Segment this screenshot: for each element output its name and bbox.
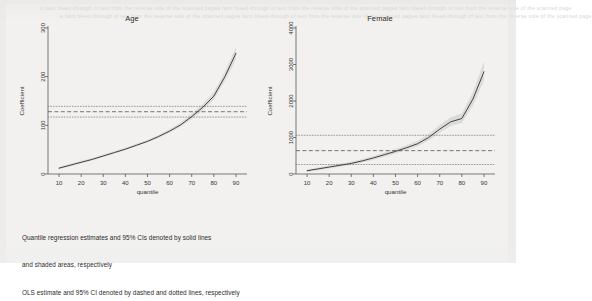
- y-tick-label-svg-female-3: 3000: [288, 57, 294, 71]
- y-tick-label-svg-female-1: 1000: [288, 130, 294, 144]
- caption-line-1: Quantile regression estimates and 95% CI…: [22, 233, 240, 242]
- x-tick-label-svg-age-3: 40: [122, 180, 129, 186]
- y-tick-label-svg-age-0: 0: [40, 172, 46, 176]
- x-tick-label-svg-female-8: 90: [481, 180, 488, 186]
- ghost-text-line-1: a faint bleed-through of text from the r…: [40, 5, 572, 11]
- x-tick-label-svg-age-0: 10: [56, 180, 63, 186]
- x-tick-label-svg-female-2: 30: [348, 180, 355, 186]
- x-tick-label-svg-age-1: 20: [78, 180, 85, 186]
- y-tick-label-svg-female-0: 0: [288, 172, 294, 176]
- plot-area-female: 01000200030004000Coefficient102030405060…: [262, 14, 498, 204]
- x-tick-label-svg-age-8: 90: [233, 180, 240, 186]
- chart-panel-age: Age 0100200300Coefficient102030405060708…: [14, 14, 250, 204]
- x-tick-label-svg-female-4: 50: [392, 180, 399, 186]
- figure-caption: Quantile regression estimates and 95% CI…: [22, 215, 240, 301]
- x-tick-label-svg-female-6: 70: [436, 180, 443, 186]
- x-axis-title-svg-age: quantile: [137, 188, 159, 195]
- estimate-line-svg-age: [59, 53, 236, 168]
- scan-edge-right: [508, 0, 516, 263]
- x-tick-label-svg-age-2: 30: [100, 180, 107, 186]
- y-axis-title-svg-female: Coefficient: [266, 86, 273, 115]
- x-tick-label-svg-female-5: 60: [414, 180, 421, 186]
- x-tick-label-svg-female-0: 10: [304, 180, 311, 186]
- y-tick-label-svg-female-2: 2000: [288, 94, 294, 108]
- y-tick-label-svg-age-3: 300: [40, 22, 46, 33]
- y-tick-label-svg-female-4: 4000: [288, 21, 294, 35]
- x-tick-label-svg-age-6: 70: [188, 180, 195, 186]
- caption-line-3: OLS estimate and 95% CI denoted by dashe…: [22, 288, 240, 297]
- y-tick-label-svg-age-2: 200: [40, 71, 46, 82]
- x-tick-label-svg-female-1: 20: [326, 180, 333, 186]
- y-tick-label-svg-age-1: 100: [40, 120, 46, 131]
- scan-edge-left: [0, 0, 6, 263]
- x-tick-label-svg-age-7: 80: [210, 180, 217, 186]
- chart-panel-female: Female 01000200030004000Coefficient10203…: [262, 14, 498, 204]
- ci-shaded-area-svg-female: [307, 62, 484, 172]
- x-tick-label-svg-female-7: 80: [458, 180, 465, 186]
- scan-edge-top: [0, 0, 516, 4]
- x-tick-label-svg-age-5: 60: [166, 180, 173, 186]
- x-axis-title-svg-female: quantile: [385, 188, 407, 195]
- ci-shaded-area-svg-age: [59, 47, 236, 169]
- plot-area-age: 0100200300Coefficient102030405060708090q…: [14, 14, 250, 204]
- y-axis-title-svg-age: Coefficient: [18, 86, 25, 115]
- x-tick-label-svg-age-4: 50: [144, 180, 151, 186]
- x-tick-label-svg-female-3: 40: [370, 180, 377, 186]
- caption-line-2: and shaded areas, respectively: [22, 260, 240, 269]
